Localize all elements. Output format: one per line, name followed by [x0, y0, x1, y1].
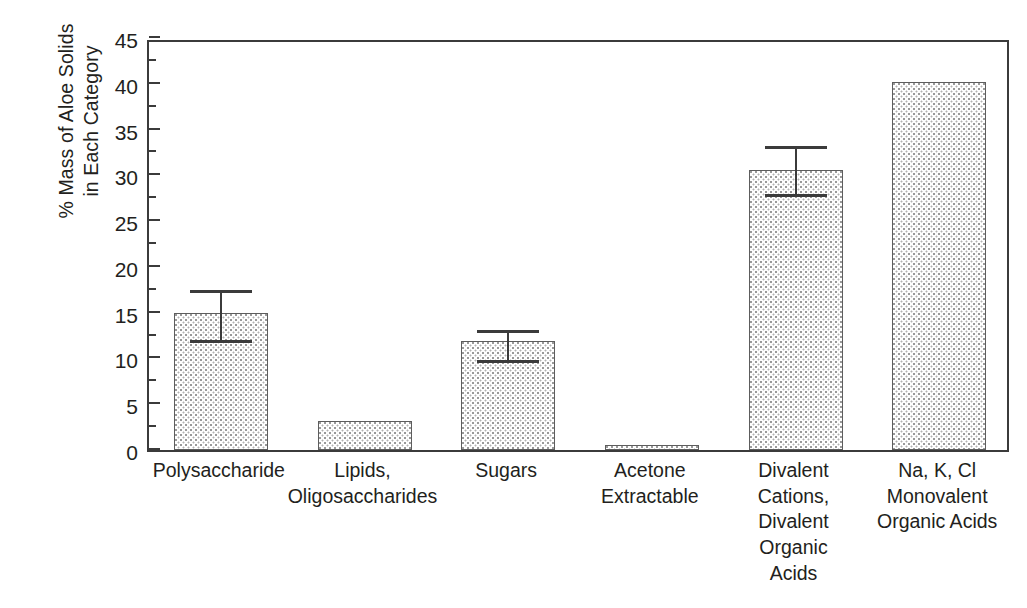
error-bar-cap-upper	[190, 290, 252, 293]
y-axis-tick-label: 25	[92, 213, 138, 234]
y-axis-major-tick	[149, 311, 160, 313]
y-axis-major-tick	[149, 36, 160, 38]
y-axis-minor-tick	[149, 334, 156, 336]
x-axis-category-label: Na, K, ClMonovalentOrganic Acids	[837, 458, 1027, 535]
y-axis-title-line-1: % Mass of Aloe Solids	[54, 23, 79, 218]
y-axis-tick-labels: 051015202530354045	[88, 40, 138, 452]
x-axis-category-label-line: Organic	[694, 535, 894, 561]
y-axis-major-tick	[149, 265, 160, 267]
bar	[605, 445, 699, 450]
y-axis-minor-tick	[149, 379, 156, 381]
error-bar	[174, 293, 268, 450]
error-bar-cap-lower	[190, 340, 252, 343]
y-axis-tick-label: 40	[92, 76, 138, 97]
y-axis-minor-tick	[149, 242, 156, 244]
y-axis-major-tick	[149, 82, 160, 84]
error-bar-cap-lower	[765, 194, 827, 197]
y-axis-tick-label: 5	[92, 396, 138, 417]
y-axis-minor-tick	[149, 425, 156, 427]
plot-area	[147, 40, 1009, 452]
y-axis-tick-label: 45	[92, 30, 138, 51]
y-axis-tick-label: 10	[92, 350, 138, 371]
error-bar-stem	[795, 149, 797, 198]
y-axis-minor-tick	[149, 59, 156, 61]
y-axis-tick-label: 35	[92, 122, 138, 143]
y-axis-major-tick	[149, 128, 160, 130]
bar	[318, 421, 412, 450]
y-axis-minor-tick	[149, 288, 156, 290]
y-axis-major-tick	[149, 448, 160, 450]
bar-chart: % Mass of Aloe Solids in Each Category 0…	[0, 0, 1027, 608]
x-axis-category-label-line: Acids	[694, 561, 894, 587]
y-axis-tick-label: 20	[92, 259, 138, 280]
x-axis-category-label-line: Oligosaccharides	[263, 484, 463, 510]
error-bar-cap-upper	[477, 330, 539, 333]
y-axis-minor-tick	[149, 150, 156, 152]
y-axis-major-tick	[149, 219, 160, 221]
x-axis-category-label-line: Na, K, Cl	[837, 458, 1027, 484]
error-bar	[461, 333, 555, 450]
x-axis-category-label-line: Organic Acids	[837, 509, 1027, 535]
y-axis-tick-label: 30	[92, 167, 138, 188]
error-bar-cap-upper	[765, 146, 827, 149]
error-bar	[749, 149, 843, 450]
y-axis-major-tick	[149, 173, 160, 175]
y-axis-minor-tick	[149, 196, 156, 198]
y-axis-tick-label: 15	[92, 305, 138, 326]
y-axis-minor-tick	[149, 105, 156, 107]
x-axis-category-label-line: Monovalent	[837, 484, 1027, 510]
error-bar-cap-lower	[477, 360, 539, 363]
y-axis-major-tick	[149, 356, 160, 358]
bar	[892, 82, 986, 450]
error-bar-stem	[220, 293, 222, 342]
y-axis-major-tick	[149, 402, 160, 404]
error-bar-stem	[507, 333, 509, 363]
